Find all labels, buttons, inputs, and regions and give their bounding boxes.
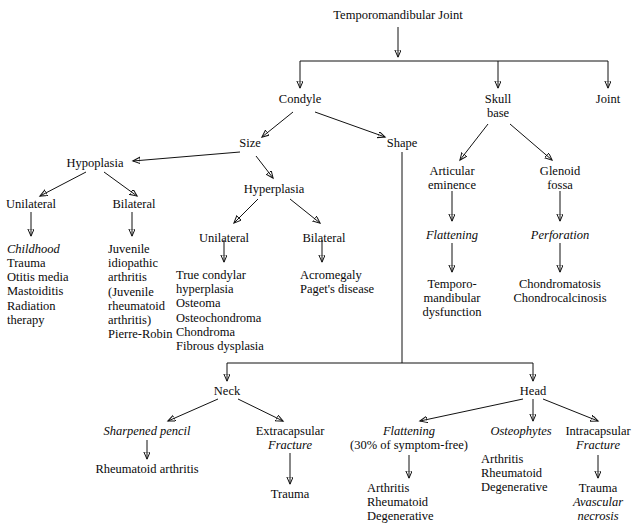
diagram-canvas: Temporomandibular Joint Condyle Skull ba…: [0, 0, 644, 530]
node-hyperplasia-unilateral: Unilateral: [199, 231, 249, 245]
node-intracapsular: Intracapsular: [565, 424, 630, 438]
node-hypoplasia-unilateral: Unilateral: [6, 197, 56, 211]
node-skull-base: Skull base: [485, 92, 511, 120]
node-hypoplasia-unilateral-list: Trauma Otitis media Mastoiditis Radiatio…: [7, 256, 68, 327]
node-joint: Joint: [596, 92, 620, 106]
node-hypoplasia-bilateral: Bilateral: [112, 197, 155, 211]
node-glenoid-fossa: Glenoid fossa: [540, 164, 580, 192]
node-chondromatosis-list: Chondromatosis Chondrocalcinosis: [513, 277, 606, 305]
node-extracapsular-fracture: Fracture: [268, 438, 312, 452]
node-condyle: Condyle: [279, 92, 321, 106]
node-perforation: Perforation: [531, 228, 589, 242]
node-avascular-necrosis: Avascular necrosis: [573, 495, 623, 523]
node-extracapsular: Extracapsular: [256, 424, 325, 438]
node-osteophytes: Osteophytes: [490, 424, 551, 438]
node-articular-eminence: Articular eminence: [428, 164, 476, 192]
node-hyperplasia-bilateral-list: Acromegaly Paget's disease: [300, 268, 374, 296]
node-sharpened-pencil: Sharpened pencil: [103, 424, 190, 438]
node-hyperplasia-bilateral: Bilateral: [302, 231, 345, 245]
node-hypoplasia-bilateral-list: Juvenile idiopathic arthritis (Juvenile …: [108, 242, 173, 341]
node-intracapsular-trauma: Trauma: [579, 481, 617, 495]
node-osteophytes-list: Arthritis Rheumatoid Degenerative: [481, 452, 548, 495]
node-hyperplasia-unilateral-list: True condylar hyperplasia Osteoma Osteoc…: [176, 268, 264, 353]
node-childhood: Childhood: [7, 242, 60, 256]
node-head: Head: [520, 384, 546, 398]
node-head-flattening: Flattening: [383, 424, 435, 438]
node-hyperplasia: Hyperplasia: [244, 182, 304, 196]
node-flattening-articular: Flattening: [426, 228, 478, 242]
node-neck: Neck: [214, 384, 240, 398]
node-extracapsular-trauma: Trauma: [271, 487, 309, 501]
node-hypoplasia: Hypoplasia: [67, 156, 124, 170]
edge-layer: [0, 0, 644, 530]
node-intracapsular-fracture: Fracture: [576, 438, 620, 452]
node-shape: Shape: [387, 136, 418, 150]
node-head-flattening-note: (30% of symptom-free): [350, 438, 468, 452]
node-head-flattening-list: Arthritis Rheumatoid Degenerative: [367, 481, 434, 524]
node-rheumatoid-arthritis: Rheumatoid arthritis: [95, 462, 198, 476]
node-root: Temporomandibular Joint: [333, 8, 462, 22]
node-tmj-dysfunction: Temporo- mandibular dysfunction: [422, 277, 481, 320]
node-size: Size: [239, 136, 261, 150]
